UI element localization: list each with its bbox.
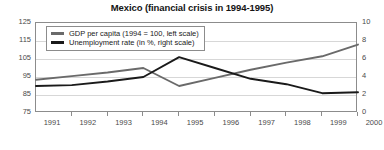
x-axis-tick-label: 1995 — [175, 118, 215, 127]
x-axis-tick-label: 1994 — [139, 118, 179, 127]
x-axis-tick-label: 1991 — [32, 118, 72, 127]
x-axis-tick-label: 1993 — [104, 118, 144, 127]
chart-container: Mexico (financial crisis in 1994-1995) 7… — [0, 0, 384, 150]
x-axis-tick-label: 1998 — [282, 118, 322, 127]
legend-swatch-icon — [51, 32, 64, 35]
x-axis-tick-label: 2000 — [354, 118, 384, 127]
legend-swatch-icon — [51, 41, 64, 44]
x-axis-tick-label: 1996 — [211, 118, 251, 127]
x-axis-tick-label: 1997 — [247, 118, 287, 127]
legend-item: Unemployment rate (in %, right scale) — [51, 38, 199, 47]
legend-item-label: GDP per capita (1994 = 100, left scale) — [69, 29, 199, 38]
x-axis-tick-label: 1992 — [68, 118, 108, 127]
legend-item-label: Unemployment rate (in %, right scale) — [69, 38, 194, 47]
x-axis-tick-label: 1999 — [318, 118, 358, 127]
chart-legend: GDP per capita (1994 = 100, left scale)U… — [46, 26, 205, 51]
legend-item: GDP per capita (1994 = 100, left scale) — [51, 29, 199, 38]
